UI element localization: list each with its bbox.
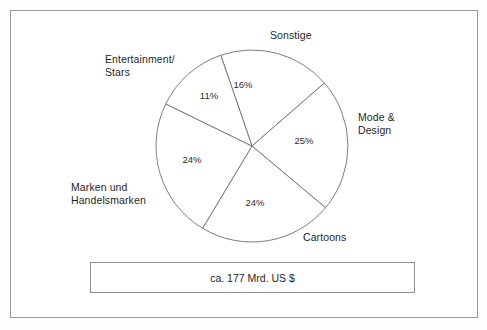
pie-label-cartoons: Cartoons bbox=[303, 231, 346, 244]
pie-slice-value: 16% bbox=[233, 79, 253, 90]
pie-slice-value: 24% bbox=[245, 197, 265, 208]
pie-label-mode-design: Mode & Design bbox=[358, 111, 395, 136]
pie-slice-value: 25% bbox=[294, 135, 314, 146]
pie-slice-value: 11% bbox=[200, 90, 219, 101]
pie-label-sonstige: Sonstige bbox=[270, 29, 312, 42]
pie-slice-value: 24% bbox=[182, 154, 202, 165]
pie-label-entertainment-stars: Entertainment/ Stars bbox=[105, 53, 175, 78]
pie-label-marken-und-handelsmarken: Marken und Handelsmarken bbox=[71, 181, 146, 206]
total-value-text: ca. 177 Mrd. US $ bbox=[210, 272, 295, 284]
total-value-box: ca. 177 Mrd. US $ bbox=[90, 262, 415, 293]
chart-figure: 16%25%24%24%11% Entertainment/ Stars Son… bbox=[0, 0, 487, 330]
